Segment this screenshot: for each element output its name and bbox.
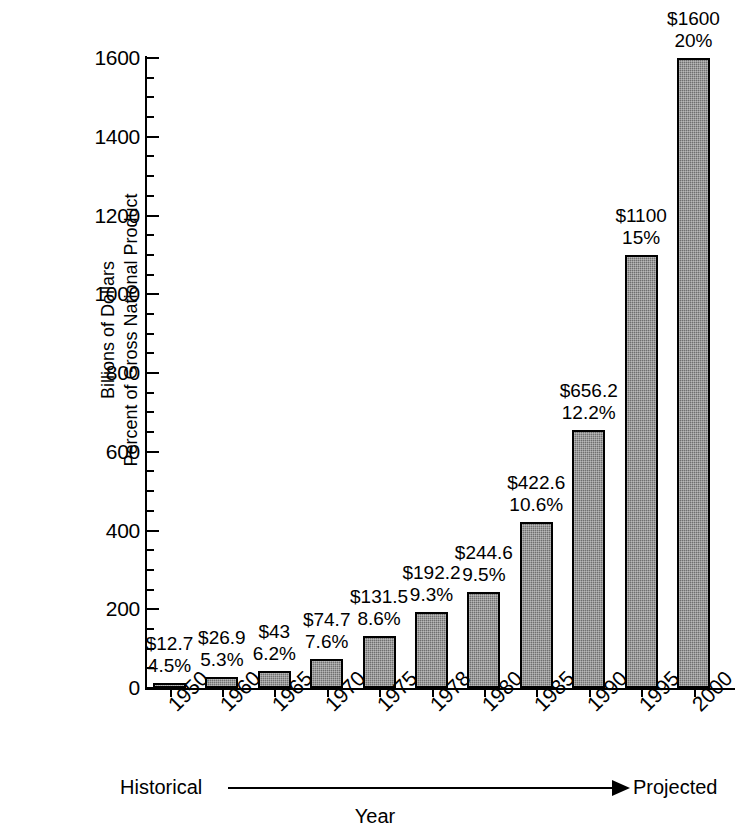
y-tick-minor xyxy=(146,490,154,492)
bar-dollar-label: $1600 xyxy=(639,8,749,30)
y-tick-minor xyxy=(146,175,154,177)
y-tick-major xyxy=(146,372,159,374)
y-axis-title-line-2: Percent of Gross National Product xyxy=(120,120,143,540)
y-tick-minor xyxy=(146,392,154,394)
y-tick-major xyxy=(146,530,159,532)
y-tick-minor xyxy=(146,431,154,433)
y-tick-minor xyxy=(146,96,154,98)
y-tick-minor xyxy=(146,569,154,571)
bar xyxy=(467,592,500,688)
y-tick-minor xyxy=(146,254,154,256)
bar xyxy=(520,522,553,688)
y-tick-minor xyxy=(146,510,154,512)
projected-label: Projected xyxy=(633,776,718,799)
y-tick-minor xyxy=(146,77,154,79)
y-tick-minor xyxy=(146,352,154,354)
y-tick-minor xyxy=(146,411,154,413)
bar xyxy=(677,58,710,688)
y-tick-major xyxy=(146,293,159,295)
bar xyxy=(625,255,658,688)
bar xyxy=(415,612,448,688)
bar xyxy=(572,430,605,688)
bar-percent-label: 20% xyxy=(639,30,749,52)
y-tick-minor xyxy=(146,333,154,335)
y-tick-minor xyxy=(146,116,154,118)
y-tick-major xyxy=(146,57,159,59)
y-tick-minor xyxy=(146,313,154,315)
y-tick-minor xyxy=(146,274,154,276)
y-tick-major xyxy=(146,608,159,610)
bar-chart: Billions of Dollars Percent of Gross Nat… xyxy=(0,0,750,834)
y-tick-major xyxy=(146,215,159,217)
y-tick-minor xyxy=(146,589,154,591)
historical-label: Historical xyxy=(120,776,202,799)
y-axis-title-line-1: Billions of Dollars xyxy=(97,120,120,540)
y-axis-title: Billions of Dollars Percent of Gross Nat… xyxy=(97,120,137,540)
timeline-arrow-line xyxy=(228,787,618,789)
y-tick-minor xyxy=(146,155,154,157)
y-tick-minor xyxy=(146,628,154,630)
bar-value-label: $160020% xyxy=(639,8,749,52)
x-axis-title: Year xyxy=(0,805,750,828)
y-tick-major xyxy=(146,451,159,453)
y-tick-minor xyxy=(146,234,154,236)
timeline-arrow-icon xyxy=(612,780,630,796)
y-tick-minor xyxy=(146,470,154,472)
y-tick-minor xyxy=(146,549,154,551)
y-tick-major xyxy=(146,136,159,138)
y-tick-minor xyxy=(146,195,154,197)
